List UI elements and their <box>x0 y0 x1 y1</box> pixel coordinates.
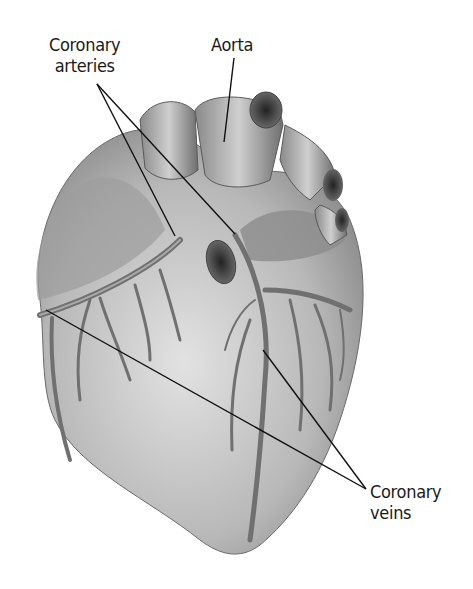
label-coronary-arteries: Coronary arteries <box>49 34 120 76</box>
label-aorta-line1: Aorta <box>211 34 253 55</box>
label-coronary-arteries-line1: Coronary <box>49 34 120 55</box>
label-coronary-veins-line1: Coronary <box>370 481 441 502</box>
label-coronary-veins: Coronary veins <box>370 481 441 523</box>
label-aorta: Aorta <box>211 34 253 55</box>
label-coronary-veins-line2: veins <box>370 502 441 523</box>
label-coronary-arteries-line2: arteries <box>49 55 120 76</box>
